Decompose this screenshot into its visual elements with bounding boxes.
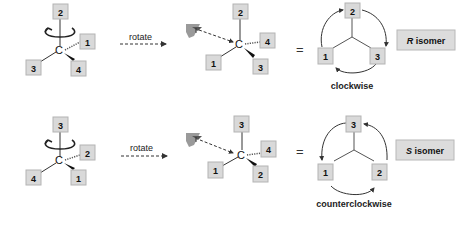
direction-label: counterclockwise [316,199,392,209]
substituent-box: 1 [318,164,333,180]
result-badge: S isomer [396,140,454,160]
result-badge: R isomer [397,30,455,50]
rotated-molecule: C 3 4 1 2 [208,116,276,182]
svg-text:2: 2 [85,149,90,159]
svg-text:2: 2 [350,7,355,17]
substituent-box: 3 [53,117,68,132]
equals-sign: = [296,144,304,159]
svg-text:2: 2 [258,170,263,180]
svg-text:3: 3 [351,120,356,130]
svg-text:1: 1 [323,52,328,62]
substituent-box: 4 [260,33,275,48]
rotated-molecule: C 2 4 1 3 [206,4,275,74]
rotate-label: rotate [130,143,153,153]
svg-text:4: 4 [31,174,36,184]
svg-text:3: 3 [31,64,36,74]
svg-text:4: 4 [266,145,271,155]
svg-text:3: 3 [58,121,63,131]
substituent-box: 2 [372,164,387,180]
substituent-box: 1 [208,162,223,178]
carbon-atom: C [55,154,63,166]
svg-text:2: 2 [238,8,243,18]
substituent-box: 1 [318,48,333,64]
substituent-box: 2 [253,166,268,182]
substituent-box: 2 [345,3,360,18]
direction-label: clockwise [331,81,374,91]
substituent-box: 3 [253,59,268,74]
substituent-box: 2 [53,4,68,19]
svg-text:1: 1 [213,166,218,176]
panel-r-configuration: C 2 1 3 4 rotate [26,3,455,91]
svg-text:4: 4 [265,37,270,47]
clockwise-arrow-icon [321,10,343,47]
svg-text:1: 1 [76,174,81,184]
newman-projection: 2 1 3 [318,3,386,73]
svg-text:3: 3 [239,120,244,130]
counterclockwise-arrow-icon [322,123,346,160]
substituent-box: 1 [80,34,95,49]
rotate-label: rotate [129,32,152,42]
substituent-box: 1 [206,55,221,70]
carbon-atom: C [55,44,63,56]
equals-sign: = [296,42,304,57]
newman-projection: 3 1 2 [318,116,387,195]
substituent-box: 4 [71,61,86,76]
substituent-box: 3 [370,48,385,64]
start-molecule: C 2 1 3 4 [26,4,95,76]
view-direction-arrow [200,140,233,153]
svg-text:2: 2 [58,8,63,18]
eye-icon [186,24,202,38]
eye-icon [186,133,202,147]
substituent-box: 3 [26,60,41,75]
svg-text:1: 1 [85,38,90,48]
carbon-atom: C [235,38,243,50]
substituent-box: 4 [261,141,276,157]
substituent-box: 4 [26,170,41,185]
view-direction-arrow [199,30,233,42]
substituent-box: 3 [234,116,249,132]
svg-text:3: 3 [375,52,380,62]
svg-text:1: 1 [211,59,216,69]
substituent-box: 2 [233,4,248,19]
start-molecule: C 3 2 4 1 [26,117,95,185]
svg-text:3: 3 [258,63,263,73]
substituent-box: 2 [80,145,95,160]
substituent-box: 1 [71,170,86,185]
svg-text:1: 1 [323,168,328,178]
svg-text:R isomer: R isomer [407,36,446,46]
svg-text:S isomer: S isomer [406,146,445,156]
panel-s-configuration: C 3 2 4 1 rotate [26,116,454,209]
carbon-atom: C [237,149,245,161]
svg-text:4: 4 [76,65,81,75]
svg-text:2: 2 [377,168,382,178]
substituent-box: 3 [346,116,361,132]
